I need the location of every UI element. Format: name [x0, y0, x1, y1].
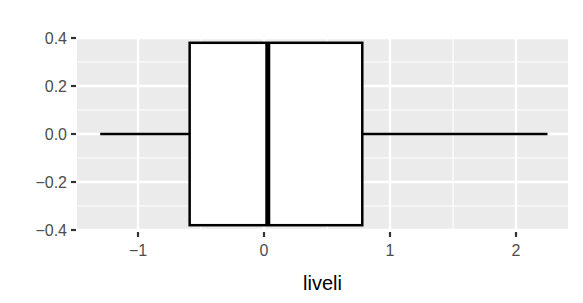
y-tick-label: 0.4: [45, 30, 67, 47]
y-tick-label: 0.2: [45, 78, 67, 95]
x-tick-label: 1: [386, 242, 395, 259]
x-axis: −1012: [129, 232, 521, 259]
interquartile-box: [190, 43, 363, 225]
y-tick-label: 0.0: [45, 126, 67, 143]
x-axis-title: liveli: [303, 272, 342, 294]
y-tick-label: −0.4: [35, 222, 67, 239]
x-tick-label: −1: [129, 242, 147, 259]
x-tick-label: 0: [260, 242, 269, 259]
x-tick-label: 2: [512, 242, 521, 259]
y-axis: 0.40.20.0−0.2−0.4: [35, 30, 76, 239]
y-tick-label: −0.2: [35, 174, 67, 191]
boxplot-chart: 0.40.20.0−0.2−0.4 −1012 liveli: [0, 0, 583, 303]
